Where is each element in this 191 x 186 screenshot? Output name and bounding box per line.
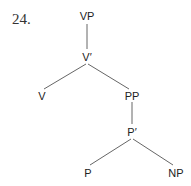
syntax-tree: VP V′ V PP P′ P NP [0,0,191,186]
edge-pbar-np [133,139,173,165]
edge-vbar-pp [88,64,129,89]
node-vbar: V′ [82,51,91,63]
edge-vbar-v [44,64,86,89]
edge-pbar-p [90,139,131,165]
node-p: P [84,167,91,179]
node-pp: PP [125,90,140,102]
node-pbar: P′ [127,126,136,138]
node-np: NP [168,167,183,179]
node-vp: VP [80,10,95,22]
node-v: V [38,90,46,102]
